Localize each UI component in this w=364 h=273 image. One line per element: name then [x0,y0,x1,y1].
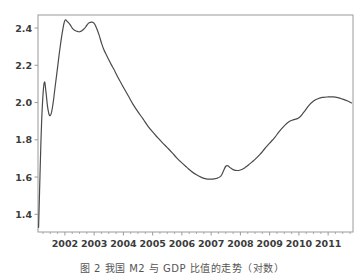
y-tick-label: 2.2 [15,60,32,71]
x-axis-tick-labels: 2002200320042005200620072008200920102011 [52,238,342,249]
x-tick-label: 2007 [198,238,224,249]
y-tick-label: 1.8 [15,134,32,145]
chart-canvas: 1.41.61.82.02.22.4 200220032004200520062… [0,0,364,273]
plot-background [38,15,353,232]
figure-container: 1.41.61.82.02.22.4 200220032004200520062… [0,0,364,273]
y-tick-label: 1.6 [15,172,32,183]
y-axis-ticks [35,28,39,214]
x-tick-label: 2004 [110,238,137,249]
x-tick-label: 2002 [52,238,78,249]
x-tick-label: 2006 [169,238,196,249]
y-axis-tick-labels: 1.41.61.82.02.22.4 [15,23,32,220]
x-tick-label: 2008 [227,238,254,249]
y-tick-label: 1.4 [15,209,32,220]
figure-caption: 图 2 我国 M2 与 GDP 比值的走势（对数） [0,262,364,273]
x-tick-label: 2009 [256,238,282,249]
x-tick-label: 2010 [286,238,313,249]
y-tick-label: 2.4 [15,23,32,34]
x-tick-label: 2011 [315,238,341,249]
y-tick-label: 2.0 [15,97,32,108]
x-tick-label: 2005 [139,238,165,249]
x-tick-label: 2003 [81,238,107,249]
plot-area: 1.41.61.82.02.22.4 200220032004200520062… [15,15,353,249]
